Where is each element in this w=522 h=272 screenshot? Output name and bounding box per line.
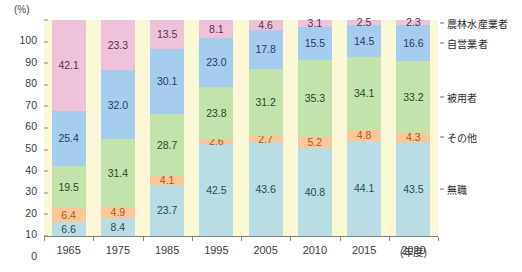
bar-value-label: 4.3 [406,132,421,143]
legend-label: 無職 [447,182,467,197]
x-axis-tick-mark [192,237,193,241]
x-axis-tick-mark [290,237,291,241]
bar-segment: 3.1 [298,20,332,27]
y-axis-tick-mark [44,192,48,193]
bar-segment: 2.3 [396,20,430,25]
legend-leader-line-icon [440,96,444,97]
y-axis-tick-mark [44,106,48,107]
bar-value-label: 2.3 [406,17,421,28]
bar-segment: 4.6 [249,20,283,30]
legend-item-無職[interactable]: 無職 [440,182,467,197]
bar-2005: 43.62.731.217.84.6 [249,20,283,236]
y-axis-tick-mark [44,20,48,21]
legend-item-農林水産業者[interactable]: 農林水産業者 [440,15,508,30]
bar-segment: 4.9 [101,207,135,218]
bar-2020: 43.54.333.216.62.3 [396,20,430,236]
bar-segment: 23.0 [199,38,233,88]
bar-segment: 16.6 [396,25,430,61]
bar-value-label: 34.1 [354,88,374,99]
bar-value-label: 23.0 [206,57,226,68]
y-axis-tick-label: 20 [25,207,37,219]
bar-value-label: 31.4 [108,168,128,179]
bar-segment: 23.3 [101,20,135,70]
bar-value-label: 4.8 [357,130,372,141]
bar-value-label: 4.9 [111,207,126,218]
bar-segment: 43.5 [396,142,430,236]
bar-segment: 35.3 [298,60,332,136]
chart-root: (%) 0102030405060708090100 6.66.419.525.… [0,0,522,272]
y-axis-tick-mark [44,63,48,64]
bar-value-label: 17.8 [255,44,275,55]
bar-value-label: 42.1 [58,60,78,71]
plot-area: 6.66.419.525.442.18.44.931.432.023.323.7… [44,20,438,236]
legend-leader-line-icon [440,22,444,23]
bar-1985: 23.74.128.730.113.5 [150,20,184,236]
bar-value-label: 4.1 [160,175,175,186]
bar-segment: 6.6 [52,222,86,236]
bar-segment: 32.0 [101,70,135,139]
bar-segment: 6.4 [52,208,86,222]
y-axis-tick-label: 40 [25,164,37,176]
legend-item-被用者[interactable]: 被用者 [440,89,478,104]
bar-1995: 42.52.623.823.08.1 [199,20,233,236]
bar-value-label: 15.5 [305,38,325,49]
bar-value-label: 6.6 [61,224,76,235]
y-axis-tick-label: 30 [25,185,37,197]
bar-segment: 28.7 [150,114,184,176]
bar-segment: 13.5 [150,20,184,49]
bar-segment: 40.8 [298,148,332,236]
legend-label: その他 [447,130,478,145]
legend-item-その他[interactable]: その他 [440,130,478,145]
bar-segment: 31.2 [249,69,283,136]
x-axis-tick-label-1965: 1965 [56,244,80,256]
legend-leader-line-icon [440,137,444,138]
x-axis-tick-mark [438,237,439,241]
x-axis-tick-label-2015: 2015 [352,244,376,256]
bar-segment: 42.1 [52,20,86,111]
bar-segment: 30.1 [150,49,184,114]
bar-2010: 40.85.235.315.53.1 [298,20,332,236]
bar-value-label: 43.6 [255,184,275,195]
bar-segment: 31.4 [101,139,135,207]
bar-value-label: 2.5 [357,17,372,28]
y-axis: 0102030405060708090100 [0,20,44,236]
x-axis-tick-mark [389,237,390,241]
bar-value-label: 35.3 [305,93,325,104]
y-axis-tick-label: 80 [25,77,37,89]
x-axis-tick-label-2005: 2005 [253,244,277,256]
legend-leader-line-icon [440,189,444,190]
y-axis-tick-label: 70 [25,99,37,111]
x-axis: 19651975198519952005201020152020 [44,237,438,272]
x-axis-tick-mark [143,237,144,241]
x-axis-tick-label-2010: 2010 [303,244,327,256]
bar-segment: 34.1 [347,57,381,131]
x-axis-tick-label-1985: 1985 [155,244,179,256]
legend-item-自営業者[interactable]: 自営業者 [440,36,488,51]
y-axis-tick-mark [44,171,48,172]
y-axis-tick-mark [44,128,48,129]
x-axis-tick-mark [241,237,242,241]
legend-label: 農林水産業者 [447,15,508,30]
y-axis-tick-mark [44,236,48,237]
bar-segment: 19.5 [52,166,86,208]
bar-value-label: 19.5 [58,182,78,193]
bar-segment: 4.8 [347,130,381,140]
y-axis-tick-mark [44,41,48,42]
bar-segment: 8.1 [199,20,233,37]
bar-value-label: 5.2 [308,137,323,148]
bar-value-label: 14.5 [354,36,374,47]
bar-value-label: 28.7 [157,140,177,151]
bar-value-label: 33.2 [403,92,423,103]
bar-value-label: 40.8 [305,187,325,198]
y-axis-tick-label: 0 [31,250,37,262]
bar-segment: 23.7 [150,185,184,236]
bar-segment: 33.2 [396,61,430,133]
bar-segment: 4.3 [396,133,430,142]
bar-2015: 44.14.834.114.52.5 [347,20,381,236]
chart-legend: 農林水産業者自営業者被用者その他無職 [440,0,522,272]
bar-value-label: 6.4 [61,210,76,221]
bar-segment: 14.5 [347,25,381,56]
bar-value-label: 23.3 [108,40,128,51]
bar-segment: 4.1 [150,176,184,185]
bar-value-label: 23.7 [157,205,177,216]
